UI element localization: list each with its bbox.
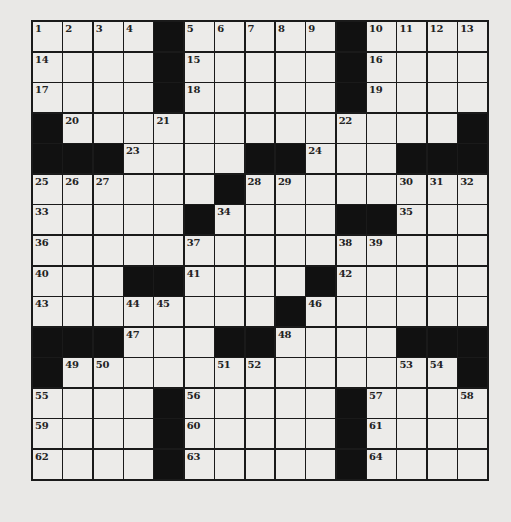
answer-cell[interactable]: [63, 297, 92, 326]
answer-cell[interactable]: 58: [458, 389, 487, 418]
answer-cell[interactable]: 17: [33, 83, 62, 112]
answer-cell[interactable]: [246, 236, 275, 265]
answer-cell[interactable]: [306, 450, 335, 479]
answer-cell[interactable]: [397, 389, 426, 418]
answer-cell[interactable]: [215, 53, 244, 82]
answer-cell[interactable]: 40: [33, 267, 62, 296]
answer-cell[interactable]: 22: [337, 114, 366, 143]
answer-cell[interactable]: 25: [33, 175, 62, 204]
answer-cell[interactable]: [124, 419, 153, 448]
answer-cell[interactable]: [458, 419, 487, 448]
answer-cell[interactable]: [215, 450, 244, 479]
answer-cell[interactable]: [397, 297, 426, 326]
answer-cell[interactable]: [276, 389, 305, 418]
answer-cell[interactable]: [246, 389, 275, 418]
answer-cell[interactable]: [94, 114, 123, 143]
answer-cell[interactable]: 31: [428, 175, 457, 204]
answer-cell[interactable]: 53: [397, 358, 426, 387]
answer-cell[interactable]: 41: [185, 267, 214, 296]
answer-cell[interactable]: 24: [306, 144, 335, 173]
answer-cell[interactable]: [63, 83, 92, 112]
answer-cell[interactable]: [458, 53, 487, 82]
answer-cell[interactable]: [458, 450, 487, 479]
answer-cell[interactable]: [458, 236, 487, 265]
answer-cell[interactable]: [276, 419, 305, 448]
answer-cell[interactable]: [337, 175, 366, 204]
answer-cell[interactable]: [367, 297, 396, 326]
answer-cell[interactable]: [306, 53, 335, 82]
answer-cell[interactable]: 33: [33, 205, 62, 234]
answer-cell[interactable]: 48: [276, 328, 305, 357]
answer-cell[interactable]: [397, 450, 426, 479]
answer-cell[interactable]: 1: [33, 22, 62, 51]
answer-cell[interactable]: [185, 114, 214, 143]
answer-cell[interactable]: [246, 205, 275, 234]
answer-cell[interactable]: 19: [367, 83, 396, 112]
answer-cell[interactable]: 36: [33, 236, 62, 265]
answer-cell[interactable]: [154, 144, 183, 173]
answer-cell[interactable]: 4: [124, 22, 153, 51]
answer-cell[interactable]: [428, 419, 457, 448]
answer-cell[interactable]: [215, 83, 244, 112]
answer-cell[interactable]: [124, 358, 153, 387]
answer-cell[interactable]: [428, 236, 457, 265]
answer-cell[interactable]: [367, 358, 396, 387]
answer-cell[interactable]: [246, 83, 275, 112]
answer-cell[interactable]: 52: [246, 358, 275, 387]
answer-cell[interactable]: [94, 450, 123, 479]
answer-cell[interactable]: 30: [397, 175, 426, 204]
answer-cell[interactable]: 7: [246, 22, 275, 51]
answer-cell[interactable]: [306, 419, 335, 448]
answer-cell[interactable]: [397, 267, 426, 296]
answer-cell[interactable]: 39: [367, 236, 396, 265]
answer-cell[interactable]: 46: [306, 297, 335, 326]
answer-cell[interactable]: [154, 175, 183, 204]
answer-cell[interactable]: 15: [185, 53, 214, 82]
answer-cell[interactable]: 54: [428, 358, 457, 387]
answer-cell[interactable]: [63, 267, 92, 296]
answer-cell[interactable]: 28: [246, 175, 275, 204]
answer-cell[interactable]: 11: [397, 22, 426, 51]
answer-cell[interactable]: [215, 236, 244, 265]
answer-cell[interactable]: [428, 389, 457, 418]
answer-cell[interactable]: [428, 114, 457, 143]
answer-cell[interactable]: 42: [337, 267, 366, 296]
answer-cell[interactable]: [124, 389, 153, 418]
answer-cell[interactable]: [215, 389, 244, 418]
answer-cell[interactable]: 60: [185, 419, 214, 448]
answer-cell[interactable]: [215, 267, 244, 296]
answer-cell[interactable]: [94, 205, 123, 234]
answer-cell[interactable]: [306, 236, 335, 265]
answer-cell[interactable]: [276, 53, 305, 82]
answer-cell[interactable]: 57: [367, 389, 396, 418]
answer-cell[interactable]: [246, 53, 275, 82]
answer-cell[interactable]: [94, 53, 123, 82]
answer-cell[interactable]: [397, 83, 426, 112]
answer-cell[interactable]: [94, 389, 123, 418]
answer-cell[interactable]: [246, 267, 275, 296]
answer-cell[interactable]: [337, 297, 366, 326]
answer-cell[interactable]: 16: [367, 53, 396, 82]
answer-cell[interactable]: [94, 236, 123, 265]
answer-cell[interactable]: [276, 114, 305, 143]
answer-cell[interactable]: [367, 114, 396, 143]
answer-cell[interactable]: [154, 236, 183, 265]
answer-cell[interactable]: [215, 419, 244, 448]
answer-cell[interactable]: 51: [215, 358, 244, 387]
answer-cell[interactable]: 13: [458, 22, 487, 51]
answer-cell[interactable]: [215, 144, 244, 173]
answer-cell[interactable]: 50: [94, 358, 123, 387]
answer-cell[interactable]: [458, 297, 487, 326]
answer-cell[interactable]: 32: [458, 175, 487, 204]
answer-cell[interactable]: 26: [63, 175, 92, 204]
answer-cell[interactable]: [94, 83, 123, 112]
answer-cell[interactable]: [306, 83, 335, 112]
answer-cell[interactable]: [306, 205, 335, 234]
answer-cell[interactable]: [124, 53, 153, 82]
answer-cell[interactable]: [397, 419, 426, 448]
answer-cell[interactable]: [63, 205, 92, 234]
answer-cell[interactable]: 49: [63, 358, 92, 387]
answer-cell[interactable]: [124, 83, 153, 112]
answer-cell[interactable]: 59: [33, 419, 62, 448]
answer-cell[interactable]: 47: [124, 328, 153, 357]
